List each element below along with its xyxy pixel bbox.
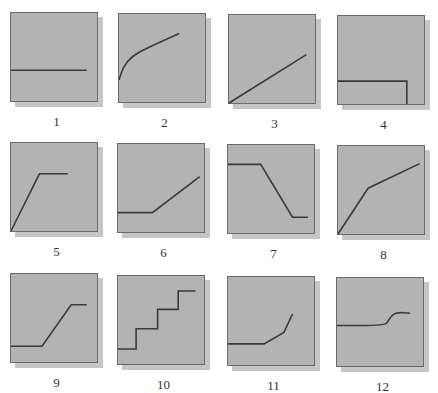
curve-line (337, 313, 410, 326)
graph-panel-1: 1 (10, 12, 98, 102)
curve-plot (337, 278, 423, 366)
graph-panel-11: 11 (227, 276, 315, 366)
curve-line (229, 55, 306, 103)
graph-panel-4: 4 (337, 15, 425, 105)
panel-label: 1 (10, 114, 103, 130)
panel-plot-area (337, 145, 425, 235)
graph-panel-3: 3 (228, 14, 316, 104)
panel-plot-area (10, 273, 98, 363)
curve-line (118, 177, 200, 213)
graph-panel-7: 7 (227, 144, 315, 234)
curve-plot (229, 15, 315, 103)
panel-label: 10 (117, 377, 210, 393)
panel-label: 8 (337, 247, 430, 263)
graph-panel-2: 2 (118, 13, 206, 103)
curve-line (11, 174, 68, 231)
curve-plot (338, 146, 424, 234)
curve-plot (338, 16, 424, 104)
curve-plot (11, 13, 97, 101)
panel-plot-area (337, 15, 425, 105)
curve-line (338, 164, 420, 234)
panel-plot-area (10, 12, 98, 102)
curve-plot (228, 145, 314, 233)
curve-line (118, 291, 195, 349)
panel-label: 7 (227, 246, 320, 262)
curve-line (228, 164, 308, 217)
panel-label: 12 (336, 379, 429, 393)
curve-line (11, 305, 87, 346)
curve-line (228, 314, 293, 344)
curve-plot (228, 277, 314, 365)
panel-label: 11 (227, 378, 320, 393)
panel-plot-area (227, 276, 315, 366)
panel-plot-area (117, 275, 205, 365)
panel-plot-area (117, 143, 205, 233)
panel-label: 6 (117, 245, 210, 261)
graph-panel-9: 9 (10, 273, 98, 363)
panel-plot-area (228, 14, 316, 104)
panel-label: 2 (118, 115, 211, 131)
panel-label: 4 (337, 117, 430, 133)
curve-plot (11, 274, 97, 362)
panel-label: 5 (10, 244, 103, 260)
panel-label: 9 (10, 375, 103, 391)
graph-panel-5: 5 (10, 142, 98, 232)
panel-plot-area (10, 142, 98, 232)
curve-plot (118, 276, 204, 364)
graph-panel-12: 12 (336, 277, 424, 367)
graph-panel-8: 8 (337, 145, 425, 235)
curve-line (338, 81, 407, 104)
graph-panel-6: 6 (117, 143, 205, 233)
curve-plot (11, 143, 97, 231)
curve-line (119, 33, 179, 80)
curve-plot (119, 14, 205, 102)
panel-label: 3 (228, 116, 321, 132)
graph-panel-10: 10 (117, 275, 205, 365)
panel-plot-area (118, 13, 206, 103)
panel-plot-area (336, 277, 424, 367)
panel-plot-area (227, 144, 315, 234)
curve-plot (118, 144, 204, 232)
